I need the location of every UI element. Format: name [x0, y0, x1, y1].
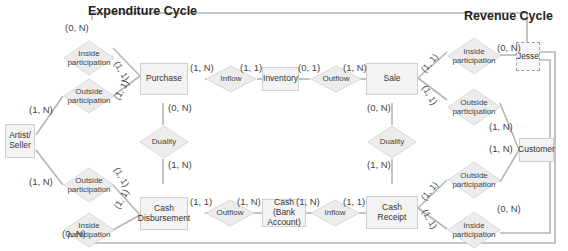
- entity-customer: Customer: [519, 138, 554, 162]
- card-cash-inflow: (1, N): [296, 196, 320, 207]
- entity-cash-receipt: Cash Receipt: [366, 196, 418, 229]
- card-artist-top: (1, N): [29, 104, 53, 115]
- card-jesse-rev-inside-bottom: (0, N): [497, 203, 521, 214]
- card-cash-outflow: (1, N): [237, 196, 261, 207]
- card-jesse-bottom-left: (0, N): [62, 228, 86, 239]
- card-sale-outflow: (1, N): [343, 62, 367, 73]
- entity-sale: Sale: [366, 63, 418, 95]
- card-inventory-inflow: (1, 1): [240, 62, 262, 73]
- card-artist-bottom: (1, N): [29, 176, 53, 187]
- rel-rev-outside-participation-bottom: Outside participation: [447, 161, 501, 199]
- revenue-cycle-title: Revenue Cycle: [464, 9, 553, 23]
- rel-exp-outside-participation-bottom: Outside participation: [63, 167, 115, 203]
- entity-cash-disbursement: Cash Disbursement: [140, 197, 188, 230]
- entity-inventory: Inventory: [262, 67, 299, 91]
- entity-purchase: Purchase: [140, 63, 188, 95]
- rel-rev-inside-participation-bottom: Inside participation: [447, 211, 501, 249]
- card-customer-top: (1, N): [489, 121, 513, 132]
- rel-rev-inside-participation-top: Inside participation: [447, 37, 501, 75]
- card-cr-inflow: (1, 1): [343, 196, 365, 207]
- entity-artist-seller: Artist/ Seller: [5, 124, 35, 158]
- card-sale-duality: (0, N): [367, 102, 391, 113]
- rel-duality-expenditure: Duality: [139, 125, 189, 159]
- rel-duality-revenue: Duality: [367, 125, 417, 159]
- card-purchase-inflow: (1, N): [190, 62, 214, 73]
- card-jesse-rev-inside: (0, N): [497, 42, 521, 53]
- card-customer-bottom: (1, N): [489, 143, 513, 154]
- card-cr-duality: (1, N): [367, 159, 391, 170]
- card-purchase-duality: (0, N): [168, 102, 192, 113]
- card-cd-outflow: (1, 1): [190, 196, 212, 207]
- rel-exp-inside-participation-top: Inside participation: [63, 40, 115, 76]
- rel-exp-outside-participation-top: Outside participation: [63, 78, 115, 114]
- card-inventory-outflow: (0, 1): [298, 62, 320, 73]
- card-cd-duality: (1, N): [168, 159, 192, 170]
- expenditure-cycle-title: Expenditure Cycle: [88, 4, 197, 18]
- card-jesse-top-left: (0, N): [65, 22, 89, 33]
- er-diagram: Expenditure Cycle Revenue Cycle Artist/ …: [0, 0, 568, 251]
